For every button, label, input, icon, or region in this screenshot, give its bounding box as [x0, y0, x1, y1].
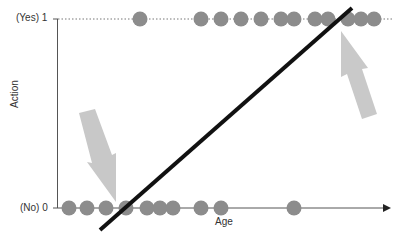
y-tick-label-no: (No) 0	[20, 202, 48, 213]
data-point	[234, 12, 249, 27]
data-point	[367, 12, 382, 27]
data-point	[287, 201, 302, 216]
data-point	[308, 12, 323, 27]
data-point	[133, 12, 148, 27]
data-point	[194, 12, 209, 27]
data-point	[274, 12, 289, 27]
data-point	[254, 12, 269, 27]
x-axis-arrowhead-icon	[383, 204, 391, 212]
x-axis-label: Age	[215, 216, 233, 227]
down-arrow-icon	[79, 109, 116, 202]
up-arrow-icon	[341, 31, 377, 119]
data-point	[214, 201, 229, 216]
data-point	[99, 201, 114, 216]
linear-fit-line	[100, 8, 352, 230]
data-point	[287, 12, 302, 27]
y-axis-label: Action	[9, 80, 20, 108]
data-point	[194, 201, 209, 216]
chart-canvas	[0, 0, 411, 242]
data-point	[80, 201, 95, 216]
data-point	[140, 201, 155, 216]
data-point	[354, 12, 369, 27]
data-point	[62, 201, 77, 216]
data-point	[214, 12, 229, 27]
y-tick-label-yes: (Yes) 1	[16, 12, 47, 23]
data-point	[153, 201, 168, 216]
data-point	[166, 201, 181, 216]
